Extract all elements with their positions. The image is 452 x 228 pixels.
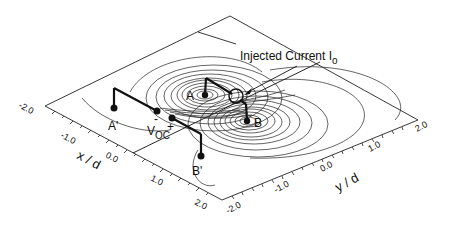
svg-text:-2.0: -2.0 (17, 100, 35, 116)
svg-text:2.0: 2.0 (193, 197, 209, 212)
injected-current-label: Injected Current Io (240, 49, 338, 66)
svg-text:-1.0: -1.0 (59, 130, 77, 146)
svg-text:-2.0: -2.0 (224, 200, 242, 216)
electrode-a-prime-dot (111, 105, 118, 112)
voc-minus-label: - (154, 112, 158, 126)
electrode-b-prime-label: B' (192, 164, 202, 178)
electrode-a-prime-label: A' (108, 119, 118, 133)
svg-text:1.0: 1.0 (149, 173, 165, 188)
electrode-b-prime-dot (198, 153, 205, 160)
electrode-a-dot (202, 92, 208, 98)
potential-contour-diagram: Injected Current Io A B A' B' VOC - + -2… (0, 0, 452, 228)
y-axis-title: y / d (332, 170, 361, 195)
svg-text:0.0: 0.0 (104, 150, 120, 165)
electrode-a-label: A (186, 89, 194, 103)
x-axis: -2.0 -1.0 0.0 1.0 2.0 x / d (17, 100, 209, 212)
voc-plus-label: + (167, 120, 174, 134)
electrode-b-label: B (254, 116, 262, 130)
x-axis-title: x / d (75, 147, 104, 172)
svg-text:-1.0: -1.0 (272, 179, 290, 195)
svg-text:1.0: 1.0 (366, 139, 382, 154)
svg-text:0.0: 0.0 (318, 159, 334, 174)
electrode-b-dot (244, 118, 250, 124)
plane-frame (45, 16, 418, 200)
y-axis: -2.0 -1.0 0.0 1.0 2.0 y / d (224, 119, 429, 216)
